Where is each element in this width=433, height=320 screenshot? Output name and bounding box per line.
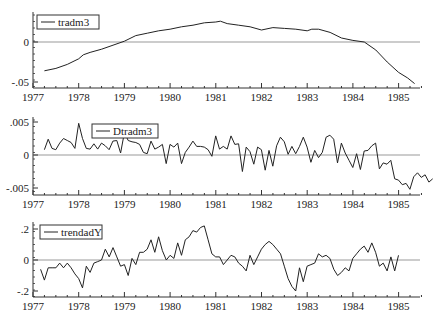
y-tick-label: -.05 <box>12 76 30 88</box>
x-tick-label: 1982 <box>251 300 273 312</box>
legend: tradm3 <box>37 15 99 29</box>
x-tick-label: 1985 <box>388 300 411 312</box>
y-tick-label: 0 <box>24 254 30 266</box>
x-tick-label: 1983 <box>296 91 319 103</box>
x-tick-label: 1983 <box>296 300 319 312</box>
x-tick-label: 1984 <box>342 300 365 312</box>
legend: Dtradm3 <box>92 124 158 138</box>
x-tick-label: 1980 <box>159 91 182 103</box>
y-tick-label: -.2 <box>17 285 29 297</box>
x-tick-label: 1979 <box>113 300 136 312</box>
y-tick-label: 0 <box>24 36 30 48</box>
x-tick-label: 1985 <box>388 198 411 210</box>
x-tick-label: 1984 <box>342 91 365 103</box>
legend-label: tradm3 <box>58 16 90 28</box>
x-tick-label: 1981 <box>205 91 227 103</box>
x-tick-label: 1977 <box>22 198 45 210</box>
legend: trendadY <box>40 225 102 239</box>
x-tick-label: 1978 <box>68 198 91 210</box>
x-tick-label: 1978 <box>68 300 91 312</box>
x-tick-label: 1977 <box>22 91 45 103</box>
x-tick-label: 1980 <box>159 300 182 312</box>
x-tick-label: 1982 <box>251 198 273 210</box>
chart-panel-trendadY: .20-.21977197819791980198119821983198419… <box>17 222 421 312</box>
x-tick-label: 1982 <box>251 91 273 103</box>
x-tick-label: 1979 <box>113 91 136 103</box>
chart-panel-Dtradm3: .0050-.005197719781979198019811982198319… <box>6 116 433 210</box>
x-tick-label: 1978 <box>68 91 91 103</box>
x-tick-label: 1984 <box>342 198 365 210</box>
x-tick-label: 1985 <box>388 91 411 103</box>
y-tick-label: .005 <box>10 116 30 128</box>
y-tick-label: 0 <box>24 149 30 161</box>
x-tick-label: 1979 <box>113 198 136 210</box>
chart-panel-tradm3: 0-.0519771978197919801981198219831984198… <box>12 12 422 103</box>
x-tick-label: 1981 <box>205 198 227 210</box>
chart-figure: 0-.0519771978197919801981198219831984198… <box>0 0 433 320</box>
y-tick-label: -.005 <box>6 182 29 194</box>
series-line-tradm3 <box>44 21 414 83</box>
y-tick-label: .2 <box>21 223 29 235</box>
legend-label: trendadY <box>61 226 102 238</box>
x-tick-label: 1977 <box>22 300 45 312</box>
x-tick-label: 1981 <box>205 300 227 312</box>
x-tick-label: 1983 <box>296 198 319 210</box>
x-tick-label: 1980 <box>159 198 182 210</box>
legend-label: Dtradm3 <box>113 125 153 137</box>
